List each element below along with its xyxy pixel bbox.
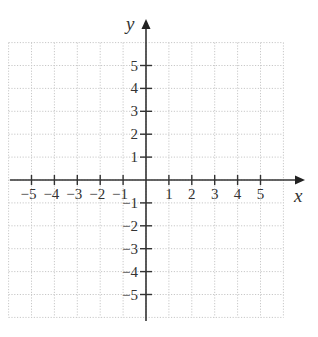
x-tick-label: −5 (21, 186, 37, 202)
x-axis-label: x (293, 185, 303, 206)
x-axis-arrow-icon (295, 176, 305, 185)
x-tick-label: 3 (211, 186, 219, 202)
x-tick-label: 1 (165, 186, 173, 202)
y-tick-label: 5 (131, 58, 139, 74)
y-tick-label: −1 (122, 195, 138, 211)
x-tick-label: 4 (234, 186, 242, 202)
y-tick-label: 2 (131, 126, 139, 142)
x-tick-label: −2 (89, 186, 105, 202)
y-tick-label: −3 (122, 241, 138, 257)
x-tick-label: −3 (66, 186, 82, 202)
x-tick-label: −4 (43, 186, 59, 202)
x-tick-label: 5 (257, 186, 265, 202)
y-axis-label: y (124, 13, 135, 34)
coordinate-plane: x y −5−4−3−2−112345−5−4−3−2−112345 (0, 0, 318, 337)
y-tick-label: 4 (131, 80, 139, 96)
y-axis-arrow-icon (142, 19, 151, 29)
y-tick-label: −4 (122, 264, 138, 280)
y-tick-label: 3 (131, 103, 139, 119)
x-tick-label: 2 (188, 186, 196, 202)
y-tick-label: 1 (131, 149, 139, 165)
y-tick-label: −5 (122, 287, 138, 303)
y-tick-label: −2 (122, 218, 138, 234)
